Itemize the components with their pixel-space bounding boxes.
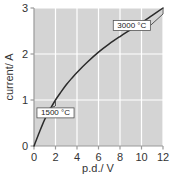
annotation-label: 3000 °C [117, 21, 146, 30]
x-tick-label: 4 [74, 151, 80, 163]
iv-characteristic-chart: 024681012 0123 1500 °C3000 °C p.d./ V cu… [0, 0, 174, 178]
y-tick-label: 3 [22, 2, 28, 14]
x-tick-label: 0 [31, 151, 37, 163]
x-tick-label: 8 [117, 151, 123, 163]
x-tick-label: 2 [52, 151, 58, 163]
y-axis-tick-labels: 0123 [22, 2, 28, 152]
x-tick-label: 10 [135, 151, 147, 163]
x-axis-title: p.d./ V [82, 162, 114, 174]
y-tick-label: 2 [22, 48, 28, 60]
chart-figure: 024681012 0123 1500 °C3000 °C p.d./ V cu… [0, 0, 174, 178]
y-axis-title: current/ A [3, 53, 15, 101]
annotation-label: 1500 °C [41, 108, 70, 117]
y-tick-label: 1 [22, 94, 28, 106]
y-tick-label: 0 [22, 140, 28, 152]
x-tick-label: 12 [157, 151, 169, 163]
